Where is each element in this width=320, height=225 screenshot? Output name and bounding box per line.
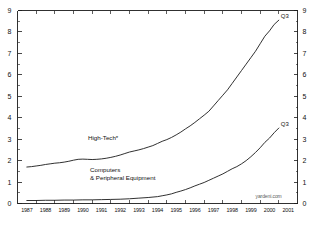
y-axis-left-tick-4: 4 <box>0 114 12 121</box>
series-label-computers-line2: & Peripheral Equipment <box>90 174 155 182</box>
x-axis-tick-1990: 1990 <box>77 207 88 213</box>
series-label-high-tech: High-Tech* <box>88 134 118 142</box>
series-line-0 <box>27 20 279 167</box>
chart-plot-svg <box>0 0 319 225</box>
x-axis-tick-1995: 1995 <box>170 207 181 213</box>
x-axis-tick-1992: 1992 <box>114 207 125 213</box>
y-axis-right-tick-6: 6 <box>303 71 320 78</box>
y-axis-right-tick-8: 8 <box>303 28 320 35</box>
x-axis-tick-1998: 1998 <box>226 207 237 213</box>
y-axis-right-tick-2: 2 <box>303 157 320 164</box>
y-axis-left-tick-6: 6 <box>0 71 12 78</box>
y-axis-right-tick-1: 1 <box>303 179 320 186</box>
x-axis-tick-1988: 1988 <box>40 207 51 213</box>
series-label-computers-line1: Computers <box>90 166 155 174</box>
x-axis-tick-1996: 1996 <box>189 207 200 213</box>
x-axis-tick-1991: 1991 <box>96 207 107 213</box>
y-axis-left-tick-0: 0 <box>0 200 12 207</box>
y-axis-left-tick-9: 9 <box>0 7 12 14</box>
y-axis-left-tick-5: 5 <box>0 93 12 100</box>
x-axis-tick-1997: 1997 <box>208 207 219 213</box>
y-axis-right-tick-3: 3 <box>303 136 320 143</box>
y-axis-right-tick-5: 5 <box>303 93 320 100</box>
y-axis-left-tick-3: 3 <box>0 136 12 143</box>
chart-axes <box>18 11 298 204</box>
series-line-1 <box>27 128 279 200</box>
y-axis-right-tick-9: 9 <box>303 7 320 14</box>
x-axis-tick-2000: 2000 <box>264 207 275 213</box>
x-axis-tick-1987: 1987 <box>21 207 32 213</box>
annotation-q3-computers: Q3 <box>281 121 289 127</box>
x-axis-tick-1999: 1999 <box>245 207 256 213</box>
y-axis-left-tick-8: 8 <box>0 28 12 35</box>
y-axis-left-tick-1: 1 <box>0 179 12 186</box>
watermark-yardeni: yardeni.com <box>256 194 282 199</box>
x-axis-tick-2001: 2001 <box>282 207 293 213</box>
y-axis-left-tick-2: 2 <box>0 157 12 164</box>
series-label-computers: Computers & Peripheral Equipment <box>90 166 155 181</box>
chart-container: 0123456789 0123456789 198719881989199019… <box>0 0 319 225</box>
y-axis-right-tick-0: 0 <box>303 200 320 207</box>
annotation-q3-high-tech: Q3 <box>281 13 289 19</box>
y-axis-left-tick-7: 7 <box>0 50 12 57</box>
x-axis-tick-1993: 1993 <box>133 207 144 213</box>
x-axis-tick-1989: 1989 <box>58 207 69 213</box>
y-axis-right-tick-4: 4 <box>303 114 320 121</box>
y-axis-right-tick-7: 7 <box>303 50 320 57</box>
x-axis-tick-1994: 1994 <box>152 207 163 213</box>
series-label-high-tech-text: High-Tech* <box>88 134 118 141</box>
